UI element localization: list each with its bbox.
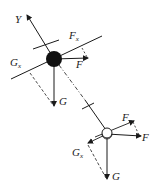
y-axis-label: Y bbox=[15, 13, 23, 25]
lower-gx-projection bbox=[88, 145, 106, 178]
lower-g-label: G bbox=[112, 170, 120, 182]
upper-fx-projection bbox=[82, 48, 87, 57]
lower-ball bbox=[102, 128, 112, 138]
lower-fx-label: Fx bbox=[121, 111, 133, 125]
connecting-rod bbox=[85, 100, 106, 130]
y-axis-tick bbox=[33, 40, 59, 49]
upper-f-label: F bbox=[75, 58, 83, 70]
lower-gx-label: Gx bbox=[72, 146, 84, 160]
lower-fx-projection bbox=[133, 122, 139, 135]
upper-g-label: G bbox=[59, 95, 67, 107]
upper-gx-projection bbox=[30, 73, 53, 105]
upper-ball bbox=[46, 51, 62, 67]
force-diagram: Y Fx F Gx G Fx F bbox=[0, 0, 154, 195]
lower-f-label: F bbox=[141, 131, 149, 143]
upper-gx-label: Gx bbox=[10, 56, 22, 70]
upper-fx-label: Fx bbox=[68, 29, 80, 43]
